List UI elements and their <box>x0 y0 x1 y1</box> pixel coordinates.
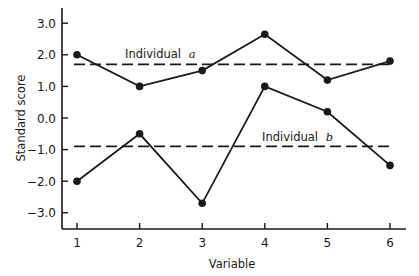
x-tick-label: 3 <box>198 236 206 250</box>
y-axis-title: Standard score <box>14 75 28 162</box>
series-line <box>77 86 390 203</box>
x-tick-label: 4 <box>261 236 269 250</box>
x-tick-label: 1 <box>73 236 81 250</box>
series-individual-b <box>73 83 394 208</box>
y-tick-label: 2.0 <box>37 48 56 62</box>
data-point-marker <box>324 76 332 84</box>
y-tick-label: 3.0 <box>37 17 56 31</box>
data-point-marker <box>324 108 332 116</box>
data-point-marker <box>261 30 269 38</box>
data-point-marker <box>198 200 206 208</box>
x-axis-ticks: 123456 <box>73 223 394 250</box>
series-label-a: Individual a <box>125 47 196 61</box>
data-point-marker <box>136 130 144 138</box>
series-line <box>77 34 390 86</box>
y-tick-label: −2.0 <box>27 175 56 189</box>
series-label-b: Individual b <box>262 130 333 144</box>
data-point-marker <box>261 83 269 91</box>
x-tick-label: 5 <box>324 236 332 250</box>
data-point-marker <box>386 57 394 65</box>
data-point-marker <box>136 83 144 91</box>
series-individual-a <box>73 30 394 90</box>
axes <box>62 8 406 229</box>
chart: 3.02.01.00.0−1.0−2.0−3.0 123456 Individu… <box>0 0 419 276</box>
y-tick-label: 0.0 <box>37 112 56 126</box>
y-tick-label: −1.0 <box>27 143 56 157</box>
data-point-marker <box>73 177 81 185</box>
data-point-marker <box>73 51 81 59</box>
x-axis-title: Variable <box>209 257 256 271</box>
y-tick-label: 1.0 <box>37 80 56 94</box>
line-chart: 3.02.01.00.0−1.0−2.0−3.0 123456 Individu… <box>0 0 419 276</box>
x-tick-label: 2 <box>136 236 144 250</box>
series-lines <box>73 30 394 207</box>
x-tick-label: 6 <box>386 236 394 250</box>
data-point-marker <box>386 162 394 170</box>
data-point-marker <box>198 67 206 75</box>
y-tick-label: −3.0 <box>27 206 56 220</box>
